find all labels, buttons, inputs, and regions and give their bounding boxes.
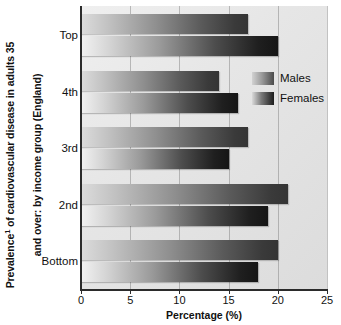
- gridline-20: [278, 6, 279, 289]
- x-tick-label-15: 15: [214, 294, 244, 306]
- x-tick-label-25: 25: [312, 294, 341, 306]
- x-axis-line: [80, 289, 328, 291]
- legend-item-females: Females: [252, 90, 340, 106]
- legend-label-males: Males: [280, 72, 311, 84]
- legend-item-males: Males: [252, 70, 340, 86]
- y-axis-line: [80, 6, 82, 291]
- category-axis-labels: Top4th3rd2ndBottom: [0, 0, 78, 325]
- category-label-4th: 4th: [2, 86, 78, 98]
- category-label-top: Top: [2, 29, 78, 41]
- chart-legend: Males Females: [252, 70, 340, 110]
- plot-area: [81, 6, 327, 289]
- x-tick-label-20: 20: [263, 294, 293, 306]
- legend-swatch-males-icon: [252, 72, 274, 85]
- bar-females-top: [81, 36, 278, 56]
- category-label-2nd: 2nd: [2, 199, 78, 211]
- bar-males-top: [81, 14, 248, 34]
- bar-females-4th: [81, 93, 238, 113]
- bar-males-4th: [81, 71, 219, 91]
- bar-males-bottom: [81, 240, 278, 260]
- bar-males-3rd: [81, 127, 248, 147]
- gridline-25: [327, 6, 328, 289]
- bar-females-bottom: [81, 262, 258, 282]
- category-label-3rd: 3rd: [2, 142, 78, 154]
- bar-females-2nd: [81, 206, 268, 226]
- chart-figure: Prevalence1 of cardiovascular disease in…: [0, 0, 341, 325]
- bar-females-3rd: [81, 149, 229, 169]
- category-label-bottom: Bottom: [2, 255, 78, 267]
- x-axis-title: Percentage (%): [81, 309, 327, 321]
- legend-label-females: Females: [280, 92, 324, 104]
- x-tick-label-10: 10: [164, 294, 194, 306]
- x-tick-label-5: 5: [115, 294, 145, 306]
- bar-males-2nd: [81, 184, 288, 204]
- x-tick-label-0: 0: [66, 294, 96, 306]
- legend-swatch-females-icon: [252, 92, 274, 105]
